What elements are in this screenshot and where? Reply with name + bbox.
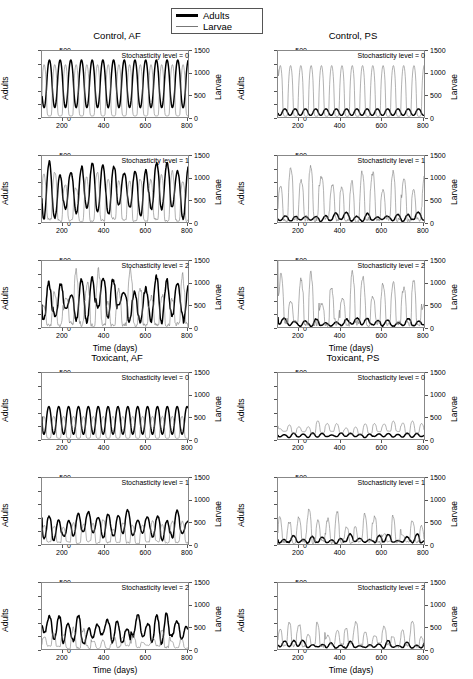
y-tick-label-right: 500: [430, 197, 442, 204]
x-tick-mark: [62, 440, 63, 443]
x-tick-mark: [340, 650, 341, 653]
group-title: Control, PS: [240, 30, 466, 41]
series-line-adults: [278, 640, 424, 648]
y-tick-mark-right: [425, 545, 428, 546]
x-tick-label: 600: [133, 227, 157, 234]
y-tick-mark-right: [189, 223, 192, 224]
x-tick-label: 400: [92, 549, 116, 556]
y-tick-mark-right: [189, 417, 192, 418]
x-tick-mark: [381, 118, 382, 121]
y-tick-mark-right: [189, 305, 192, 306]
x-tick-label: 400: [92, 332, 116, 339]
x-tick-mark: [298, 650, 299, 653]
y-tick-mark-right: [425, 155, 428, 156]
y-tick-mark-right: [189, 50, 192, 51]
y-tick-mark-left: [274, 118, 277, 119]
y-axis-label-left: Adults: [0, 76, 10, 100]
y-tick-label-right: 500: [194, 414, 206, 421]
x-tick-mark: [145, 223, 146, 226]
plot-area: [277, 155, 425, 223]
x-tick-mark: [340, 118, 341, 121]
y-tick-mark-right: [189, 545, 192, 546]
x-tick-mark: [340, 328, 341, 331]
x-tick-label: 200: [50, 444, 74, 451]
y-tick-mark-right: [425, 223, 428, 224]
y-tick-label-right: 1000: [430, 174, 446, 181]
y-tick-label-right: 500: [430, 519, 442, 526]
x-tick-label: 200: [50, 332, 74, 339]
y-tick-mark-left: [274, 328, 277, 329]
y-axis-label-right: Larvae: [213, 501, 223, 527]
y-tick-mark-left: [38, 440, 41, 441]
y-tick-label-right: 1000: [194, 69, 210, 76]
y-tick-mark-right: [189, 500, 192, 501]
series-line-larvae: [278, 65, 424, 116]
y-tick-mark-right: [425, 417, 428, 418]
y-tick-label-right: 1000: [430, 391, 446, 398]
series-line-larvae: [278, 261, 424, 327]
y-tick-mark-left: [274, 440, 277, 441]
plot-area: [41, 50, 189, 118]
y-tick-mark-right: [189, 73, 192, 74]
series-line-larvae: [42, 170, 188, 222]
x-tick-label: 600: [369, 549, 393, 556]
x-tick-mark: [381, 223, 382, 226]
stochasticity-level-annotation: Stochasticity level = 2: [121, 584, 189, 592]
x-tick-label: 200: [286, 654, 310, 661]
y-tick-label-right: 1500: [430, 47, 446, 54]
y-tick-mark-right: [189, 477, 192, 478]
plot-panel: AdultsLarvae0100200300400500050010001500…: [240, 477, 466, 577]
y-tick-label-right: 500: [194, 197, 206, 204]
plot-panel: AdultsLarvae0100200300400500050010001500…: [240, 50, 466, 150]
x-tick-label: 600: [369, 654, 393, 661]
y-tick-mark-left: [274, 545, 277, 546]
y-tick-mark-right: [425, 605, 428, 606]
y-tick-label-right: 500: [194, 624, 206, 631]
y-axis-label-right: Larvae: [213, 179, 223, 205]
y-tick-label-right: 0: [194, 647, 198, 654]
x-tick-label: 200: [50, 122, 74, 129]
x-tick-mark: [423, 650, 424, 653]
x-tick-mark: [62, 545, 63, 548]
y-tick-mark-right: [425, 305, 428, 306]
x-tick-label: 800: [175, 227, 199, 234]
x-tick-label: 800: [411, 444, 435, 451]
plot-panel: AdultsLarvae0100200300400500050010001500…: [4, 50, 230, 150]
series-line-adults: [42, 613, 188, 644]
y-axis-label-right: Larvae: [213, 74, 223, 100]
x-tick-label: 800: [411, 122, 435, 129]
x-tick-mark: [187, 650, 188, 653]
y-tick-label-right: 0: [430, 542, 434, 549]
x-tick-label: 400: [328, 332, 352, 339]
series-line-adults: [278, 212, 424, 222]
y-tick-label-right: 1500: [194, 579, 210, 586]
y-tick-mark-right: [189, 582, 192, 583]
y-tick-mark-right: [425, 200, 428, 201]
panel-group-control-af: Control, AF AdultsLarvae0100200300400500…: [4, 30, 230, 340]
group-title: Toxicant, PS: [240, 352, 466, 363]
y-tick-label-right: 500: [430, 414, 442, 421]
y-tick-label-right: 500: [430, 624, 442, 631]
stochasticity-level-annotation: Stochasticity level = 1: [121, 157, 189, 165]
x-tick-label: 800: [175, 444, 199, 451]
y-tick-mark-right: [189, 283, 192, 284]
y-tick-mark-right: [425, 500, 428, 501]
x-tick-label: 600: [133, 444, 157, 451]
y-tick-mark-right: [425, 178, 428, 179]
y-tick-label-right: 1500: [194, 369, 210, 376]
y-axis-label-right: Larvae: [213, 606, 223, 632]
y-tick-mark-right: [425, 50, 428, 51]
y-tick-label-right: 1500: [430, 152, 446, 159]
stochasticity-level-annotation: Stochasticity level = 1: [357, 479, 425, 487]
x-tick-label: 400: [328, 549, 352, 556]
x-tick-mark: [298, 328, 299, 331]
plot-area: [277, 50, 425, 118]
x-tick-label: 600: [369, 332, 393, 339]
y-axis-label-left: Adults: [0, 398, 10, 422]
x-tick-label: 600: [369, 444, 393, 451]
y-tick-label-right: 1500: [194, 474, 210, 481]
plot-area: [41, 155, 189, 223]
y-tick-mark-right: [189, 522, 192, 523]
x-tick-label: 200: [286, 227, 310, 234]
y-tick-label-right: 1000: [194, 174, 210, 181]
